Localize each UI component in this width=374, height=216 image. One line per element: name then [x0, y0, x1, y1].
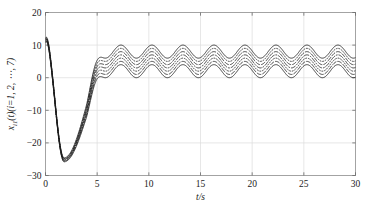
y-tick-label: 0: [37, 73, 42, 83]
line-chart: 051015202530 −30−20−1001020 t/s xi1(t)(i…: [0, 0, 374, 216]
y-tick-label: 20: [32, 8, 42, 18]
y-tick-label: −20: [27, 138, 42, 148]
y-axis-title: xi1(t)(i=1, 2, ⋯, 7): [6, 58, 17, 131]
x-tick-label: 15: [196, 179, 206, 189]
x-tick-label: 0: [43, 179, 48, 189]
y-axis-title-text: xi1(t)(i=1, 2, ⋯, 7): [6, 58, 17, 131]
y-tick-label: −30: [27, 171, 42, 181]
y-tick-label: 10: [32, 41, 42, 51]
x-tick-label: 5: [95, 179, 100, 189]
x-tick-label: 25: [299, 179, 309, 189]
x-tick-label: 30: [351, 179, 361, 189]
x-axis-title: t/s: [196, 192, 205, 202]
x-tick-labels: 051015202530: [43, 179, 360, 189]
x-tick-label: 20: [247, 179, 257, 189]
x-tick-label: 10: [144, 179, 154, 189]
y-axis-title-rotated: xi1(t)(i=1, 2, ⋯, 7): [6, 58, 17, 131]
y-tick-labels: −30−20−1001020: [27, 8, 42, 181]
figure-canvas: 051015202530 −30−20−1001020 t/s xi1(t)(i…: [0, 0, 374, 216]
x-axis-title-text: t/s: [196, 192, 205, 202]
y-tick-label: −10: [27, 106, 42, 116]
